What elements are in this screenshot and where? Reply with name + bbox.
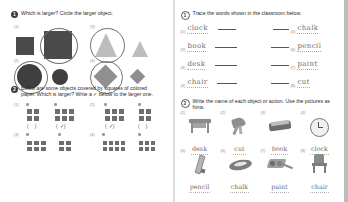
trace-label-4-index: (4) xyxy=(181,83,186,88)
left-q1-block: 1 Which is larger? Circle the larger obj… xyxy=(11,10,163,18)
left-q2-text: Below are some objects covered by square… xyxy=(21,85,161,97)
page-edge-right xyxy=(344,0,348,202)
trace-label-8-index: (8) xyxy=(291,83,296,88)
right-q1-block: 1 Trace the words shown in the classroom… xyxy=(181,10,341,20)
small-circle-shape[interactable] xyxy=(52,69,68,85)
left-q2-heading: 2 Below are some objects covered by squa… xyxy=(11,85,161,97)
left-q1-item-1[interactable]: (1) xyxy=(14,24,84,61)
trace-label-2[interactable]: (2) book xyxy=(181,42,207,52)
left-q1-text: Which is larger? Circle the larger objec… xyxy=(21,10,113,16)
marker-dot xyxy=(102,133,105,136)
left-q1-number: 1 xyxy=(11,11,18,18)
scissors-icon xyxy=(221,115,259,137)
answer-check: ✓ xyxy=(60,123,64,129)
trace-label-3[interactable]: (3) desk xyxy=(181,60,206,70)
trace-word-clock[interactable]: clock xyxy=(187,24,208,34)
left-q2-number: 2 xyxy=(11,86,18,93)
right-q2-item-5[interactable]: (5) pencil xyxy=(181,148,219,193)
answer-check: ✓ xyxy=(109,123,113,129)
left-page: 1 Which is larger? Circle the larger obj… xyxy=(0,0,175,202)
trace-word-chair[interactable]: chair xyxy=(187,78,207,88)
leader-line xyxy=(271,83,289,84)
trace-label-5-index: (5) xyxy=(291,29,296,34)
leader-line xyxy=(273,29,289,30)
left-q2-block: 2 Below are some objects covered by squa… xyxy=(11,85,161,97)
trace-label-7[interactable]: (7) paint xyxy=(291,60,318,70)
left-q2-item-4-index: (4) xyxy=(90,132,95,137)
left-q2-item-4[interactable]: (4) xyxy=(92,134,164,160)
marker-dot xyxy=(104,103,107,106)
left-q2-item-3[interactable]: (3) xyxy=(14,134,86,160)
small-diamond-shape[interactable] xyxy=(130,69,146,85)
leader-line xyxy=(215,65,237,66)
right-q2-block: 2 Write the name of each object or actio… xyxy=(181,98,343,110)
leader-line xyxy=(271,65,289,66)
right-q2-word-8[interactable]: chair xyxy=(310,183,329,193)
right-q2-heading: 2 Write the name of each object or actio… xyxy=(181,98,343,110)
leader-line xyxy=(271,47,289,48)
right-q2-item-7[interactable]: (7) paint xyxy=(261,148,299,193)
right-q2-word-5[interactable]: pencil xyxy=(189,183,211,193)
left-q1-item-3-shapes xyxy=(90,29,160,61)
leader-line xyxy=(217,83,237,84)
clock-icon xyxy=(301,115,339,137)
left-q2-item-1[interactable]: (1) ( ) ( ) xyxy=(14,104,86,130)
marker-dot xyxy=(58,133,61,136)
right-q1-number: 1 xyxy=(181,11,190,20)
trace-label-1[interactable]: (1) clock xyxy=(181,24,208,34)
answer-paren-right[interactable]: ( ) xyxy=(138,123,148,129)
marker-dot xyxy=(54,103,57,106)
right-q2-word-6[interactable]: chalk xyxy=(230,183,249,193)
trace-label-6-index: (6) xyxy=(291,47,296,52)
right-q2-item-8[interactable]: (8) chair xyxy=(301,148,339,193)
trace-label-7-index: (7) xyxy=(291,65,296,70)
chair-icon xyxy=(301,153,339,175)
trace-word-book[interactable]: book xyxy=(187,42,206,52)
trace-label-8[interactable]: (8) cut xyxy=(291,78,310,88)
left-q2-item-2[interactable]: (2) ( ) ✓ xyxy=(92,104,164,130)
small-square-shape[interactable] xyxy=(16,37,34,55)
right-q2-text: Write the name of each object or action.… xyxy=(193,98,343,110)
trace-label-1-index: (1) xyxy=(181,29,186,34)
trace-label-6[interactable]: (6) pencil xyxy=(291,42,322,52)
book-icon xyxy=(261,115,299,137)
trace-word-pencil[interactable]: pencil xyxy=(297,42,321,52)
left-q1-item-3[interactable]: (3) xyxy=(90,24,160,61)
left-q1-item-1-shapes xyxy=(14,29,84,61)
trace-label-4[interactable]: (4) chair xyxy=(181,78,208,88)
trace-label-3-index: (3) xyxy=(181,65,186,70)
trace-word-paint[interactable]: paint xyxy=(297,60,317,70)
trace-word-desk[interactable]: desk xyxy=(187,60,205,70)
pencil-icon xyxy=(181,153,219,175)
right-q1-heading: 1 Trace the words shown in the classroom… xyxy=(181,10,341,20)
chalk-icon xyxy=(221,153,259,175)
trace-word-cut[interactable]: cut xyxy=(297,78,309,88)
leader-line xyxy=(215,47,237,48)
marker-dot xyxy=(138,103,141,106)
right-page: 1 Trace the words shown in the classroom… xyxy=(175,0,348,202)
paint-icon xyxy=(261,153,299,175)
left-q1-heading: 1 Which is larger? Circle the larger obj… xyxy=(11,10,163,18)
marker-dot xyxy=(26,103,29,106)
trace-label-5[interactable]: (5) chalk xyxy=(291,24,319,34)
marker-dot xyxy=(26,133,29,136)
answer-paren-left[interactable]: ( ) xyxy=(27,123,37,129)
left-q2-item-2-index: (2) xyxy=(90,102,95,107)
right-q2-number: 2 xyxy=(181,99,190,108)
marker-dot xyxy=(138,133,141,136)
trace-word-chalk[interactable]: chalk xyxy=(297,24,318,34)
right-q2-word-7[interactable]: paint xyxy=(270,183,289,193)
trace-label-2-index: (2) xyxy=(181,47,186,52)
leader-line xyxy=(218,29,236,30)
small-triangle-shape[interactable] xyxy=(132,41,148,57)
desk-icon xyxy=(181,115,219,137)
left-q2-item-1-index: (1) xyxy=(14,102,19,107)
right-q1-text: Trace the words shown in the classroom b… xyxy=(193,10,302,16)
worksheet-spread: 1 Which is larger? Circle the larger obj… xyxy=(0,0,348,202)
right-q2-item-6[interactable]: (6) chalk xyxy=(221,148,259,193)
left-q2-item-3-index: (3) xyxy=(14,132,19,137)
